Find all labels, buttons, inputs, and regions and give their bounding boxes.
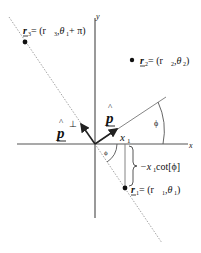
x-axis-label: x: [188, 141, 193, 150]
svg-text:): ): [177, 184, 180, 196]
svg-text:= (r: = (r: [31, 25, 46, 37]
offset-label: −x 1 cot[ϕ]: [140, 161, 180, 173]
svg-text:−x: −x: [140, 161, 152, 172]
r2-label: r 2 = (r 2 ,θ 2 ): [140, 55, 189, 67]
p-perp-arrow: [81, 124, 95, 144]
r1-label: r 1 = (r 1 ,θ 1 ): [131, 184, 180, 196]
svg-text:r: r: [23, 25, 27, 36]
svg-text:r: r: [140, 55, 144, 66]
svg-text:⊥: ⊥: [69, 119, 77, 129]
p-hat-label: ^ p: [104, 102, 115, 126]
svg-text:= (r: = (r: [148, 55, 163, 67]
p-hat-arrow: [95, 129, 117, 144]
svg-text:cot[ϕ]: cot[ϕ]: [156, 161, 180, 172]
angle-upper-label: ϕ: [154, 119, 158, 128]
diagram-canvas: x y ϕ ϕ ^ p ^ p ⊥ x 1 −x 1 cot[ϕ]: [0, 0, 201, 253]
angle-arc-upper: [158, 102, 164, 144]
svg-text:r: r: [131, 184, 135, 195]
x1-label: x 1: [119, 131, 131, 145]
svg-text:,θ: ,θ: [174, 55, 182, 66]
point-r3: [23, 40, 28, 45]
svg-text:p: p: [104, 110, 114, 126]
p-perp-label: ^ p ⊥: [55, 117, 77, 141]
svg-text:): ): [186, 55, 189, 67]
point-r2: [130, 58, 134, 62]
svg-text:,θ: ,θ: [57, 25, 65, 36]
svg-text:,θ: ,θ: [165, 184, 173, 195]
svg-text:= (r: = (r: [139, 184, 154, 196]
svg-text:p: p: [55, 125, 65, 141]
y-axis-label: y: [95, 12, 100, 21]
angle-lower-label: ϕ: [104, 149, 108, 157]
svg-text:x: x: [119, 131, 125, 143]
r3-label: r 3 = (r 3 ,θ 1 + π): [23, 25, 86, 37]
svg-text:+ π): + π): [69, 25, 86, 37]
svg-text:1: 1: [127, 137, 131, 145]
point-r1: [123, 186, 128, 191]
angle-arc-lower: [107, 144, 117, 162]
brace: [129, 146, 137, 186]
